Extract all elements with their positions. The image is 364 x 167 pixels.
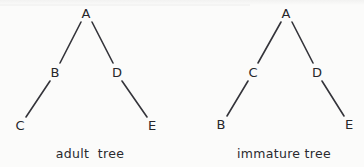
tree-edge-immature-tree-A-C bbox=[258, 22, 281, 63]
tree-node-immature-tree-B: B bbox=[217, 118, 226, 131]
tree-edge-adult-tree-D-E bbox=[122, 81, 147, 117]
tree-edge-adult-tree-A-B bbox=[60, 22, 81, 63]
tree-node-immature-tree-C: C bbox=[248, 66, 257, 79]
tree-node-adult-tree-E: E bbox=[148, 119, 156, 132]
panel-caption-immature-tree: immature tree bbox=[237, 147, 331, 160]
tree-node-adult-tree-C: C bbox=[15, 119, 24, 132]
tree-node-adult-tree-A: A bbox=[82, 7, 91, 20]
tree-node-immature-tree-D: D bbox=[312, 66, 322, 79]
tree-edge-adult-tree-A-D bbox=[92, 22, 113, 63]
panel-caption-adult-tree: adult tree bbox=[56, 147, 124, 160]
tree-edge-layer bbox=[0, 0, 364, 167]
tree-node-adult-tree-B: B bbox=[51, 66, 60, 79]
tree-edge-immature-tree-A-D bbox=[292, 22, 313, 63]
tree-node-immature-tree-E: E bbox=[345, 118, 353, 131]
tree-node-immature-tree-A: A bbox=[282, 7, 291, 20]
tree-diagram-figure: ABDCEadult treeACDBEimmature tree bbox=[0, 0, 364, 167]
tree-edge-immature-tree-C-B bbox=[227, 81, 248, 116]
tree-edge-adult-tree-B-C bbox=[26, 81, 50, 117]
tree-edge-immature-tree-D-E bbox=[322, 81, 344, 116]
tree-node-adult-tree-D: D bbox=[112, 66, 122, 79]
